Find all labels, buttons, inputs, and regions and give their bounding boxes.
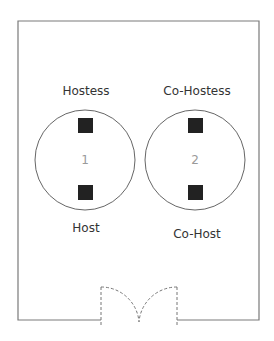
seating-diagram: [0, 0, 274, 341]
seat-co-host: [188, 185, 203, 200]
table-1-number: 1: [81, 153, 89, 167]
double-door: [101, 287, 177, 326]
seat-co-hostess: [188, 118, 203, 133]
table-2-number: 2: [191, 153, 199, 167]
room-wall: [18, 21, 259, 320]
label-host: Host: [72, 221, 99, 235]
label-co-host: Co-Host: [173, 227, 221, 241]
label-hostess: Hostess: [62, 84, 109, 98]
seat-host: [78, 185, 93, 200]
label-co-hostess: Co-Hostess: [163, 84, 230, 98]
door-swing-left: [101, 287, 139, 322]
seat-hostess: [78, 118, 93, 133]
door-swing-right: [139, 287, 177, 322]
